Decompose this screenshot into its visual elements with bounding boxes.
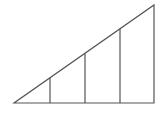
right-triangle <box>14 5 154 103</box>
triangle-diagram <box>0 0 166 117</box>
vertical-segments <box>50 29 120 103</box>
